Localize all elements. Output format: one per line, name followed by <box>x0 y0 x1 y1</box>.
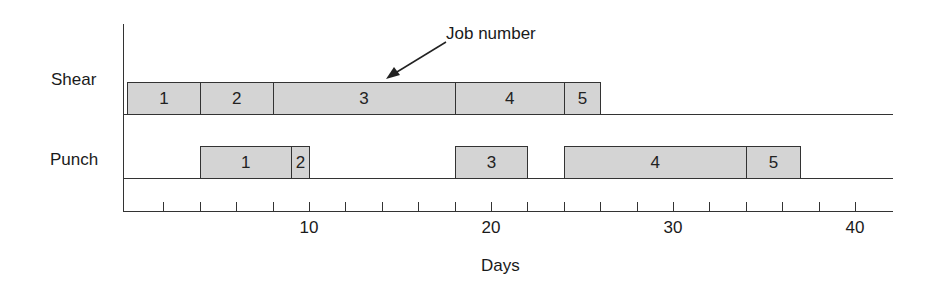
x-tick-label: 20 <box>482 218 501 238</box>
x-tick <box>491 202 492 211</box>
row-label-punch: Punch <box>50 150 98 170</box>
bar-punch-job-5: 5 <box>746 146 802 179</box>
x-tick <box>709 202 710 211</box>
row-label-shear: Shear <box>51 70 96 90</box>
bar-punch-job-2: 2 <box>291 146 310 179</box>
x-tick <box>455 202 456 211</box>
x-tick <box>782 202 783 211</box>
x-tick-label: 30 <box>664 218 683 238</box>
x-tick <box>819 202 820 211</box>
bar-punch-job-4: 4 <box>564 146 747 179</box>
bar-shear-job-2: 2 <box>200 82 274 115</box>
x-tick <box>236 202 237 211</box>
x-tick <box>345 202 346 211</box>
bar-shear-job-4: 4 <box>455 82 565 115</box>
bar-punch-job-3: 3 <box>455 146 529 179</box>
bar-shear-job-5: 5 <box>564 82 601 115</box>
x-tick <box>855 202 856 211</box>
x-tick <box>637 202 638 211</box>
y-axis-line <box>123 24 124 211</box>
gantt-chart: Shear Punch 1234512345 10203040 Job numb… <box>0 0 947 297</box>
x-tick <box>527 202 528 211</box>
x-tick <box>200 202 201 211</box>
x-axis-line <box>123 211 893 212</box>
bar-punch-job-1: 1 <box>200 146 292 179</box>
arrow-icon <box>380 40 450 82</box>
x-tick <box>273 202 274 211</box>
bar-shear-job-3: 3 <box>273 82 456 115</box>
x-tick <box>382 202 383 211</box>
annotation-label: Job number <box>446 24 536 44</box>
x-tick <box>673 202 674 211</box>
x-tick <box>746 202 747 211</box>
x-tick <box>309 202 310 211</box>
x-axis-label: Days <box>481 256 520 276</box>
x-tick <box>418 202 419 211</box>
x-tick <box>163 202 164 211</box>
x-tick <box>600 202 601 211</box>
x-tick <box>564 202 565 211</box>
bar-shear-job-1: 1 <box>127 82 201 115</box>
x-tick-label: 10 <box>300 218 319 238</box>
x-tick-label: 40 <box>846 218 865 238</box>
